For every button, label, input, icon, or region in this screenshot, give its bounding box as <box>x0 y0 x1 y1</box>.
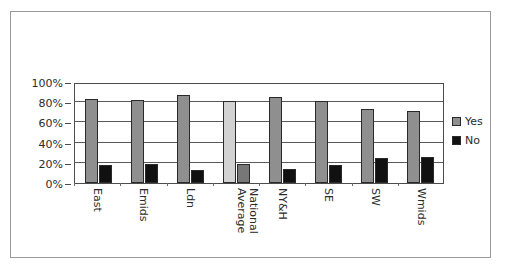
x-axis-category: NationalAverage <box>213 186 259 256</box>
x-axis-tick-mark <box>120 183 121 186</box>
x-axis-label: Emids <box>138 188 150 221</box>
bar-yes <box>361 109 374 183</box>
x-axis-label: Ldn <box>184 188 196 208</box>
bar-no <box>329 165 342 183</box>
bar-no <box>237 164 250 183</box>
x-axis: EastEmidsLdnNationalAverageNY&HSESWWmids <box>74 186 444 256</box>
legend-item-label: No <box>465 135 480 146</box>
bar-no <box>145 164 158 183</box>
x-axis-label-line: Ldn <box>183 188 196 208</box>
bars-layer <box>75 84 443 183</box>
x-axis-category: SE <box>305 186 351 256</box>
bar-yes <box>131 100 144 183</box>
x-axis-tick-mark <box>259 183 260 186</box>
x-axis-category: Ldn <box>167 186 213 256</box>
y-axis-tick-mark <box>65 164 71 165</box>
bar-no <box>283 169 296 183</box>
x-axis-tick-mark <box>74 183 75 186</box>
chart-card: 0%20%40%60%80%100% EastEmidsLdnNationalA… <box>10 11 491 258</box>
bar-no <box>191 170 204 183</box>
bar-no <box>375 158 388 183</box>
x-axis-tick-mark <box>305 183 306 186</box>
legend-item-label: Yes <box>465 116 483 127</box>
y-axis-tick-mark <box>65 123 71 124</box>
x-axis-category: Emids <box>120 186 166 256</box>
y-axis-tick-label: 100% <box>32 78 63 89</box>
bar-yes <box>177 95 190 183</box>
bar-yes <box>85 99 98 183</box>
x-axis-label-line: Emids <box>137 188 150 221</box>
x-axis-label: NY&H <box>276 188 288 220</box>
y-axis-tick-label: 40% <box>39 139 63 150</box>
x-axis-label: SW <box>369 188 381 206</box>
bar-group <box>167 84 213 183</box>
x-axis-category: Wmids <box>398 186 444 256</box>
x-axis-label: Wmids <box>415 188 427 225</box>
x-axis-label-line: Average <box>236 188 248 234</box>
bar-group <box>121 84 167 183</box>
y-axis-tick-label: 80% <box>39 98 63 109</box>
bar-yes <box>223 101 236 183</box>
x-axis-label: NationalAverage <box>236 188 259 234</box>
y-axis: 0%20%40%60%80%100% <box>11 75 71 193</box>
y-axis-tick-mark <box>65 83 71 84</box>
bar-group <box>305 84 351 183</box>
bar-yes <box>407 111 420 183</box>
x-axis-label-line: NY&H <box>276 188 289 220</box>
legend-item-yes[interactable]: Yes <box>452 116 500 127</box>
x-axis-tick-mark <box>398 183 399 186</box>
chart-legend: YesNo <box>452 116 500 154</box>
x-axis-tick-mark <box>167 183 168 186</box>
y-axis-tick-label: 0% <box>46 179 63 190</box>
x-axis-label: East <box>91 188 103 212</box>
legend-item-no[interactable]: No <box>452 135 500 146</box>
y-axis-tick-label: 20% <box>39 159 63 170</box>
x-axis-tick-mark <box>352 183 353 186</box>
bar-yes <box>269 97 282 183</box>
x-axis-tick-mark <box>213 183 214 186</box>
x-axis-label-line: SE <box>322 188 335 202</box>
bar-group <box>397 84 443 183</box>
bar-no <box>421 157 434 183</box>
gray-square-swatch <box>452 117 461 126</box>
x-axis-label: SE <box>323 188 335 202</box>
y-axis-tick-mark <box>65 103 71 104</box>
bar-group <box>213 84 259 183</box>
y-axis-tick-mark <box>65 184 71 185</box>
x-axis-label-line: SW <box>368 188 381 206</box>
y-axis-tick-mark <box>65 144 71 145</box>
black-square-swatch <box>452 136 461 145</box>
x-axis-category: East <box>74 186 120 256</box>
y-axis-tick-label: 60% <box>39 118 63 129</box>
x-axis-label-line: Wmids <box>415 188 428 225</box>
x-axis-category: NY&H <box>259 186 305 256</box>
x-axis-category: SW <box>352 186 398 256</box>
x-axis-label-line: East <box>91 188 104 212</box>
plot-area <box>74 83 444 184</box>
bar-group <box>259 84 305 183</box>
bar-yes <box>315 101 328 183</box>
bar-group <box>75 84 121 183</box>
bar-group <box>351 84 397 183</box>
bar-no <box>99 165 112 183</box>
